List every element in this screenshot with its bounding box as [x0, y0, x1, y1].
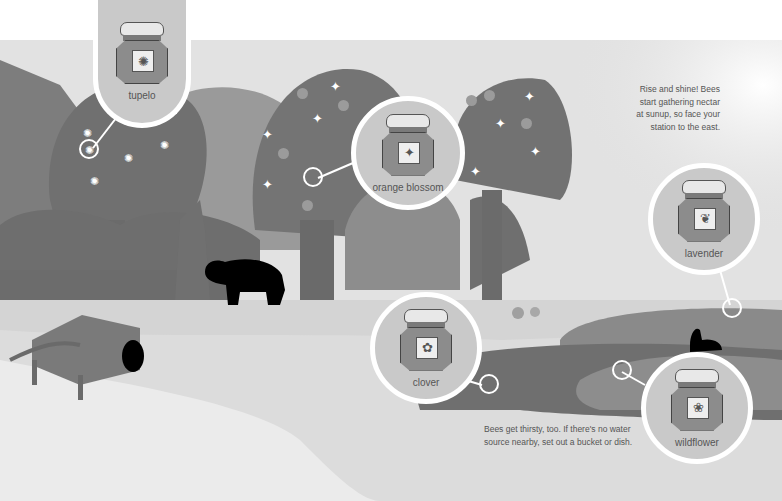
orange-blossom-flower-icon: ✦ [524, 90, 535, 103]
honey-jar: ✿ [398, 309, 454, 373]
orange-fruit [302, 200, 313, 211]
callout-label: wildflower [675, 437, 719, 448]
callout-tupelo[interactable]: ✺ tupelo [93, 0, 191, 128]
note-line: Rise and shine! Bees [584, 83, 720, 96]
water-note: Bees get thirsty, too. If there's no wat… [484, 423, 654, 448]
callout-clover[interactable]: ✿ clover [370, 292, 482, 404]
lavender-hotspot[interactable] [722, 298, 742, 318]
honey-jar: ❦ [676, 180, 732, 244]
honey-jar: ✺ [114, 22, 170, 86]
tupelo-blossom-icon: ✺ [124, 153, 133, 164]
orange-fruit [521, 118, 532, 129]
jar-lid [404, 309, 448, 323]
tupelo-blossom-icon: ✺ [83, 128, 92, 139]
clover-icon: ✿ [416, 337, 438, 359]
note-line: source nearby, set out a bucket or dish. [484, 436, 654, 449]
callout-orange-blossom[interactable]: ✦ orange blossom [351, 96, 465, 210]
orange-fruit [278, 148, 289, 159]
note-line: start gathering nectar [584, 96, 720, 109]
orange-fruit [484, 90, 495, 101]
orange-blossom-hotspot[interactable] [303, 167, 323, 187]
callout-label: tupelo [128, 90, 155, 101]
honey-jar: ❀ [669, 369, 725, 433]
orange-blossom-icon: ✦ [398, 142, 420, 164]
tupelo-blossom-icon: ✺ [90, 176, 99, 187]
callout-lavender[interactable]: ❦ lavender [648, 163, 760, 275]
orange-blossom-flower-icon: ✦ [312, 112, 323, 125]
orange-fruit [338, 100, 349, 111]
tupelo-flower-icon: ✺ [132, 50, 154, 72]
lavender-sprig-icon: ❦ [694, 208, 716, 230]
orange-blossom-flower-icon: ✦ [530, 145, 541, 158]
note-line: at sunup, so face your [584, 108, 720, 121]
orange-blossom-flower-icon: ✦ [470, 165, 481, 178]
jar-lid [682, 180, 726, 194]
note-line: station to the east. [584, 121, 720, 134]
jar-lid [386, 114, 430, 128]
orange-fruit [297, 88, 308, 99]
jar-lid [675, 369, 719, 383]
orange-fruit [466, 95, 477, 106]
jar-lid [120, 22, 164, 36]
orange-blossom-flower-icon: ✦ [330, 80, 341, 93]
orange-blossom-flower-icon: ✦ [262, 128, 273, 141]
honey-jar: ✦ [380, 114, 436, 178]
tupelo-blossom-icon: ✺ [160, 140, 169, 151]
tupelo-hotspot[interactable] [79, 139, 99, 159]
sunrise-note: Rise and shine! Bees start gathering nec… [584, 83, 720, 133]
wildflower-hotspot[interactable] [612, 360, 632, 380]
callout-label: clover [413, 377, 440, 388]
clover-hotspot[interactable] [479, 374, 499, 394]
callout-wildflower[interactable]: ❀ wildflower [641, 352, 753, 464]
orange-blossom-flower-icon: ✦ [495, 117, 506, 130]
callout-label: orange blossom [372, 182, 443, 193]
orange-blossom-flower-icon: ✦ [262, 178, 273, 191]
note-line: Bees get thirsty, too. If there's no wat… [484, 423, 654, 436]
wildflower-icon: ❀ [687, 397, 709, 419]
callout-label: lavender [685, 248, 723, 259]
